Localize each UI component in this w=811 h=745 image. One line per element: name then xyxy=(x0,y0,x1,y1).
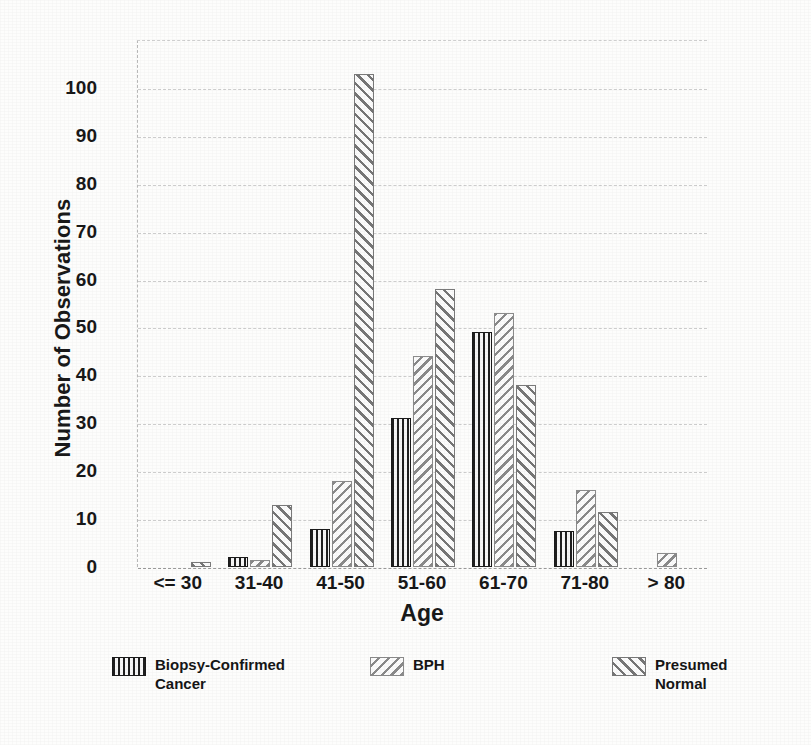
bar[interactable] xyxy=(191,562,211,567)
bar-group xyxy=(391,41,455,567)
bar[interactable] xyxy=(354,74,374,567)
bar[interactable] xyxy=(391,418,411,567)
bar[interactable] xyxy=(413,356,433,567)
bars-layer xyxy=(138,41,707,567)
y-tick-label-80: 80 xyxy=(37,173,97,195)
bar[interactable] xyxy=(310,529,330,567)
bar-group xyxy=(228,41,292,567)
y-tick-label-70: 70 xyxy=(37,221,97,243)
x-tick-label: <= 30 xyxy=(153,572,202,594)
y-tick-label-40: 40 xyxy=(37,364,97,386)
bar-group xyxy=(310,41,374,567)
y-tick-label-60: 60 xyxy=(37,269,97,291)
bar-group xyxy=(472,41,536,567)
bar[interactable] xyxy=(272,505,292,567)
x-axis-tick-labels: <= 3031-4041-5051-6061-7071-80> 80 xyxy=(137,572,707,602)
y-tick-label-30: 30 xyxy=(37,412,97,434)
y-tick-label-10: 10 xyxy=(37,508,97,530)
y-tick-label-100: 100 xyxy=(37,77,97,99)
x-tick-label: 31-40 xyxy=(235,572,284,594)
x-tick-label: 71-80 xyxy=(561,572,610,594)
chart-legend: Biopsy-Confirmed CancerBPHPresumed Norma… xyxy=(112,655,732,725)
legend-entry[interactable]: BPH xyxy=(370,655,445,676)
x-tick-label: 51-60 xyxy=(398,572,447,594)
bar[interactable] xyxy=(598,512,618,567)
x-axis-title: Age xyxy=(137,600,707,627)
legend-label: Presumed Normal xyxy=(655,655,728,693)
legend-swatch-icon xyxy=(370,657,404,676)
bar[interactable] xyxy=(228,557,248,567)
bar-group xyxy=(147,41,211,567)
legend-label: Biopsy-Confirmed Cancer xyxy=(155,655,285,693)
bar[interactable] xyxy=(435,289,455,567)
bar[interactable] xyxy=(554,531,574,567)
bar[interactable] xyxy=(576,490,596,567)
plot-area xyxy=(137,40,707,567)
legend-swatch-icon xyxy=(112,657,146,676)
bar[interactable] xyxy=(332,481,352,567)
bar[interactable] xyxy=(516,385,536,567)
bar-chart-figure: Number of Observations 01020304050607080… xyxy=(0,0,811,745)
y-tick-label-50: 50 xyxy=(37,316,97,338)
legend-label: BPH xyxy=(413,655,445,674)
x-tick-label: > 80 xyxy=(648,572,686,594)
x-tick-label: 41-50 xyxy=(316,572,365,594)
gridline-0 xyxy=(138,568,707,569)
bar-group xyxy=(554,41,618,567)
bar[interactable] xyxy=(250,560,270,567)
legend-swatch-icon xyxy=(612,657,646,676)
bar-group xyxy=(635,41,699,567)
bar[interactable] xyxy=(472,332,492,567)
legend-entry[interactable]: Biopsy-Confirmed Cancer xyxy=(112,655,285,693)
y-tick-label-20: 20 xyxy=(37,460,97,482)
x-tick-label: 61-70 xyxy=(479,572,528,594)
y-tick-label-0: 0 xyxy=(37,556,97,578)
bar[interactable] xyxy=(657,553,677,567)
bar[interactable] xyxy=(494,313,514,567)
y-tick-label-90: 90 xyxy=(37,125,97,147)
legend-entry[interactable]: Presumed Normal xyxy=(612,655,728,693)
